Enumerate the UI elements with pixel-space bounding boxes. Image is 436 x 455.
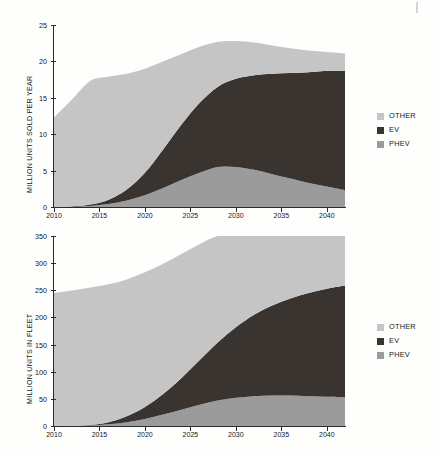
legend-swatch-other <box>377 113 384 120</box>
x-tick-label: 2040 <box>313 431 341 438</box>
y-tick-label: 25 <box>21 21 47 30</box>
stacked-area-svg <box>54 236 345 426</box>
legend-label: OTHER <box>389 323 416 330</box>
legend-swatch-phev <box>377 141 384 148</box>
y-tick-label: 250 <box>21 286 47 295</box>
legend-label: OTHER <box>389 112 416 119</box>
legend-label: PHEV <box>389 140 410 147</box>
x-tick-label: 2020 <box>131 212 159 219</box>
chart-units-in-fleet: MILLION UNITS IN FLEET OTHEREVPHEV 05010… <box>0 228 436 455</box>
y-tick-label: 20 <box>21 57 47 66</box>
y-tick-label: 0 <box>21 422 47 431</box>
x-tick-label: 2035 <box>267 431 295 438</box>
y-tick-label: 5 <box>21 167 47 176</box>
y-axis-label-fleet: MILLION UNITS IN FLEET <box>26 314 34 404</box>
x-tick-label: 2015 <box>85 212 113 219</box>
y-axis-line <box>53 25 54 208</box>
x-axis-line <box>53 426 346 427</box>
y-tick-mark <box>51 317 56 318</box>
legend-label: EV <box>389 126 399 133</box>
chart-units-sold-per-year: MILLION UNITS SOLD PER YEAR OTHEREVPHEV … <box>0 0 436 228</box>
y-tick-label: 300 <box>21 259 47 268</box>
y-tick-mark <box>51 61 56 62</box>
y-tick-label: 50 <box>21 395 47 404</box>
x-tick-label: 2040 <box>313 212 341 219</box>
legend-item-ev: EV <box>377 124 399 136</box>
y-tick-label: 15 <box>21 94 47 103</box>
y-tick-mark <box>51 345 56 346</box>
x-tick-label: 2020 <box>131 431 159 438</box>
y-tick-label: 200 <box>21 313 47 322</box>
y-tick-mark <box>51 399 56 400</box>
y-tick-label: 350 <box>21 232 47 241</box>
x-tick-label: 2035 <box>267 212 295 219</box>
y-tick-label: 10 <box>21 130 47 139</box>
y-tick-mark <box>51 171 56 172</box>
legend-item-other: OTHER <box>377 321 416 333</box>
x-tick-label: 2010 <box>40 431 68 438</box>
y-tick-mark <box>51 290 56 291</box>
y-tick-mark <box>51 263 56 264</box>
legend-fleet: OTHEREVPHEV <box>377 321 436 365</box>
y-tick-mark <box>51 372 56 373</box>
legend-item-phev: PHEV <box>377 349 410 361</box>
plot-area-sold <box>54 25 345 207</box>
plot-area-fleet <box>54 236 345 426</box>
y-tick-mark <box>51 134 56 135</box>
y-tick-label: 100 <box>21 368 47 377</box>
x-tick-label: 2030 <box>222 431 250 438</box>
legend-swatch-other <box>377 324 384 331</box>
legend-swatch-phev <box>377 352 384 359</box>
x-axis-line <box>53 207 346 208</box>
legend-label: EV <box>389 337 399 344</box>
x-tick-label: 2015 <box>85 431 113 438</box>
legend-item-ev: EV <box>377 335 399 347</box>
x-tick-label: 2025 <box>176 212 204 219</box>
stacked-area-svg <box>54 25 345 207</box>
x-tick-label: 2030 <box>222 212 250 219</box>
figure-page: MILLION UNITS SOLD PER YEAR OTHEREVPHEV … <box>0 0 436 455</box>
legend-sold: OTHEREVPHEV <box>377 110 436 154</box>
y-tick-mark <box>51 25 56 26</box>
legend-item-other: OTHER <box>377 110 416 122</box>
y-tick-mark <box>51 236 56 237</box>
x-tick-label: 2010 <box>40 212 68 219</box>
y-tick-label: 150 <box>21 341 47 350</box>
y-tick-mark <box>51 98 56 99</box>
legend-swatch-ev <box>377 338 384 345</box>
legend-swatch-ev <box>377 127 384 134</box>
x-tick-label: 2025 <box>176 431 204 438</box>
legend-label: PHEV <box>389 351 410 358</box>
legend-item-phev: PHEV <box>377 138 410 150</box>
y-tick-label: 0 <box>21 203 47 212</box>
